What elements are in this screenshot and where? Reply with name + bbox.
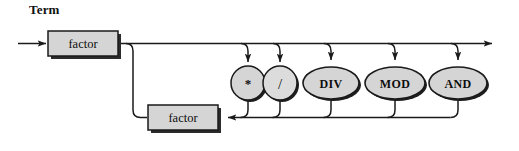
stem-from-and <box>451 99 459 118</box>
node-operator-star[interactable]: * <box>231 66 267 102</box>
bypass-rail-left <box>126 44 147 118</box>
branch-to-slash <box>273 44 280 63</box>
node-factor-first[interactable]: factor <box>48 31 121 59</box>
stem-from-div <box>324 99 332 118</box>
branch-to-star <box>241 44 248 63</box>
railroad-canvas: factor factor * / DIV <box>0 0 519 151</box>
mod-label: MOD <box>380 77 411 91</box>
syntax-diagram: Term <box>0 0 519 151</box>
factor-box-label: factor <box>68 37 98 51</box>
node-factor-repeat[interactable]: factor <box>148 105 221 133</box>
branch-to-mod <box>388 44 395 61</box>
repeat-factor-box-label: factor <box>168 111 198 125</box>
div-label: DIV <box>319 77 342 91</box>
and-label: AND <box>444 77 471 91</box>
star-label: * <box>245 76 252 91</box>
node-operator-slash[interactable]: / <box>263 66 299 102</box>
branch-to-div <box>324 44 331 61</box>
node-operator-div[interactable]: DIV <box>303 67 361 101</box>
stem-from-mod <box>388 99 396 118</box>
node-operator-and[interactable]: AND <box>429 67 489 101</box>
node-operator-mod[interactable]: MOD <box>365 67 427 101</box>
branch-to-and <box>451 44 458 61</box>
